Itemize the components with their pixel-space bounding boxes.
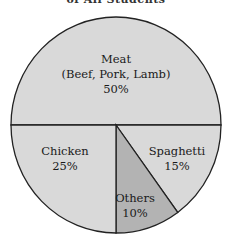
- label-chicken: Chicken 25%: [30, 144, 100, 174]
- label-others: Others 10%: [110, 191, 160, 221]
- slice-chicken: [11, 125, 116, 233]
- label-spaghetti: Spaghetti 15%: [142, 144, 212, 174]
- label-meat: Meat (Beef, Pork, Lamb) 50%: [56, 52, 176, 97]
